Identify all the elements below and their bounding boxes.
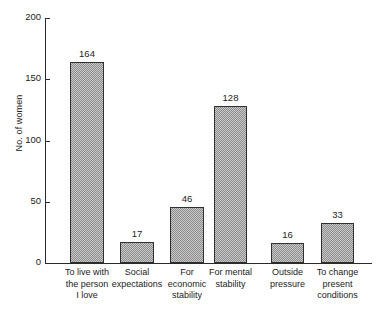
y-tick-label: 150 — [0, 72, 48, 83]
bar — [271, 243, 304, 263]
y-axis-title: No. of women — [14, 68, 24, 178]
bar-value-label: 128 — [204, 92, 257, 103]
category-label-line: To change — [307, 267, 369, 279]
bar-value-label: 164 — [60, 48, 114, 59]
category-label: For mentalstability — [200, 267, 262, 290]
y-tick-label: 50 — [0, 195, 48, 206]
bar-value-label: 33 — [311, 209, 364, 220]
bar-chart-figure: No. of women 050100150200 16417461281633… — [0, 0, 382, 315]
bar — [70, 62, 104, 263]
category-label-line: I love — [56, 290, 118, 302]
category-label-line: conditions — [307, 290, 369, 302]
category-label-line: For mental — [200, 267, 262, 279]
plot-area: 16417461281633 — [45, 18, 372, 263]
y-tick-label: 200 — [0, 11, 48, 22]
bar — [170, 207, 204, 263]
y-tick-label: 0 — [0, 256, 48, 267]
category-label-line: stability — [156, 290, 218, 302]
bar-value-label: 17 — [110, 228, 164, 239]
x-axis-line — [45, 263, 372, 264]
bar-value-label: 16 — [261, 229, 314, 240]
bar — [321, 223, 354, 263]
y-tick-label: 100 — [0, 134, 48, 145]
category-label-line: present — [307, 279, 369, 291]
bar-value-label: 46 — [160, 193, 214, 204]
bar — [214, 106, 247, 263]
category-label-line: stability — [200, 279, 262, 291]
bar — [120, 242, 154, 263]
category-label: To changepresentconditions — [307, 267, 369, 302]
